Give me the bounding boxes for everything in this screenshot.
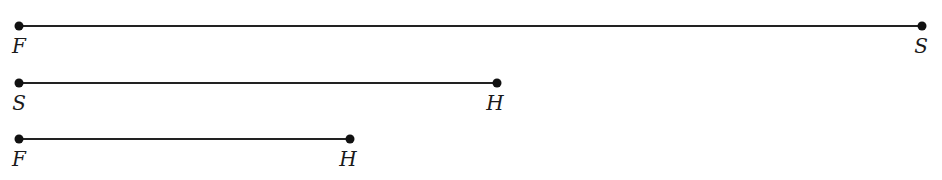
point-s-dot — [918, 22, 927, 31]
label-fh-start: F — [12, 149, 26, 169]
point-f-dot — [15, 135, 24, 144]
label-sh-end: H — [486, 93, 503, 113]
point-s-dot — [15, 79, 24, 88]
label-fs-end: S — [914, 36, 928, 56]
point-f-dot — [15, 22, 24, 31]
segment-fh — [15, 135, 355, 144]
segment-fs — [15, 22, 927, 31]
point-h-dot — [493, 79, 502, 88]
label-fh-end: H — [339, 149, 356, 169]
segment-sh — [15, 79, 502, 88]
segment-diagram: F S S H F H — [0, 0, 942, 180]
label-sh-start: S — [12, 93, 26, 113]
label-fs-start: F — [12, 36, 26, 56]
point-h-dot — [346, 135, 355, 144]
segments-canvas — [0, 0, 942, 180]
